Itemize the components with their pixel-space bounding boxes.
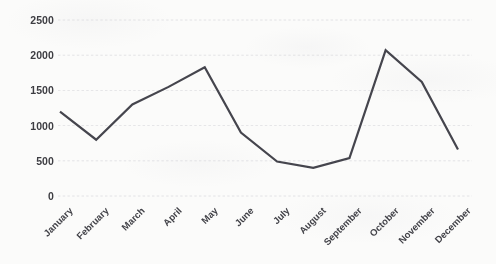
- y-axis-tick-label: 2000: [12, 49, 54, 61]
- y-axis-tick-label: 1500: [12, 84, 54, 96]
- y-axis-tick-label: 0: [12, 190, 54, 202]
- line-chart: 25002000150010005000 JanuaryFebruaryMarc…: [0, 0, 496, 264]
- y-axis-tick-label: 1000: [12, 120, 54, 132]
- gridlines: [58, 20, 472, 196]
- data-series-line: [60, 50, 458, 168]
- y-axis-tick-label: 500: [12, 155, 54, 167]
- y-axis-tick-label: 2500: [12, 14, 54, 26]
